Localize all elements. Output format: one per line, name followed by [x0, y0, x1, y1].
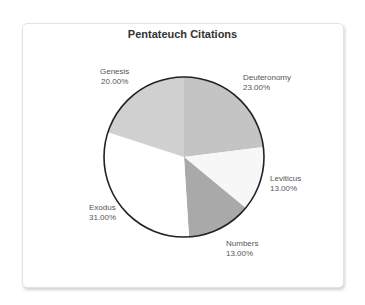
label-exodus: Exodus 31.00%: [89, 203, 116, 223]
label-genesis: Genesis 20.00%: [100, 67, 129, 87]
label-deuteronomy-name: Deuteronomy: [243, 73, 291, 83]
label-deuteronomy-pct: 23.00%: [243, 83, 291, 93]
pie-chart: [0, 0, 365, 305]
pie-slices: [104, 77, 264, 237]
label-numbers-name: Numbers: [226, 239, 258, 249]
label-leviticus: Leviticus 13.00%: [270, 174, 301, 194]
label-leviticus-pct: 13.00%: [270, 184, 301, 194]
label-genesis-pct: 20.00%: [100, 77, 129, 87]
label-numbers-pct: 13.00%: [226, 249, 258, 259]
label-deuteronomy: Deuteronomy 23.00%: [243, 73, 291, 93]
label-genesis-name: Genesis: [100, 67, 129, 77]
label-exodus-pct: 31.00%: [89, 213, 116, 223]
label-numbers: Numbers 13.00%: [226, 239, 258, 259]
label-leviticus-name: Leviticus: [270, 174, 301, 184]
label-exodus-name: Exodus: [89, 203, 116, 213]
